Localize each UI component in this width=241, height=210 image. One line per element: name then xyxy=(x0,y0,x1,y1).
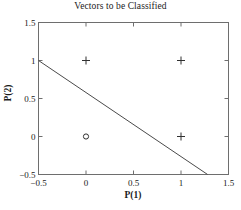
x-tick-label: 0.5 xyxy=(128,178,139,188)
y-axis-label: P(2) xyxy=(3,68,13,118)
x-tick-label: 1.5 xyxy=(223,178,234,188)
x-axis-label: P(1) xyxy=(38,190,228,200)
decision-boundary-line xyxy=(39,61,208,175)
y-tick-label: 1 xyxy=(31,56,36,66)
y-tick-label: 0.5 xyxy=(24,94,35,104)
tick-marks xyxy=(39,23,229,175)
axes-frame xyxy=(39,23,229,175)
y-tick-label: 0 xyxy=(31,132,36,142)
figure-container: Vectors to be Classified −0.500.511.5 −0… xyxy=(0,0,241,210)
y-tick-label: 1.5 xyxy=(24,18,35,28)
x-tick-label: 1 xyxy=(179,178,184,188)
y-tick-label: −0.5 xyxy=(19,170,35,180)
data-point-markers xyxy=(82,57,185,141)
x-tick-label: 0 xyxy=(84,178,89,188)
